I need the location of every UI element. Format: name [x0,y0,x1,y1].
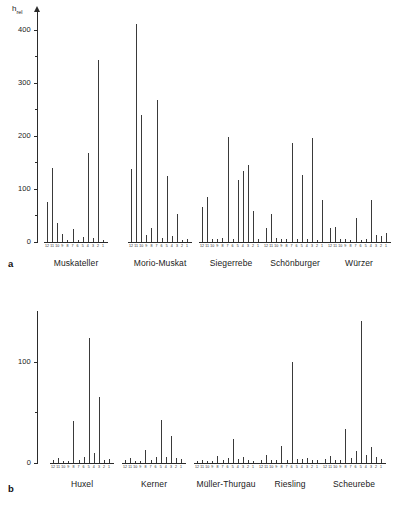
bar [371,447,372,463]
y-tick-major [34,189,38,190]
bar [94,453,95,463]
group-baseline [50,463,114,464]
bar [386,233,387,242]
bar [266,455,267,463]
bar [141,115,142,242]
y-tick-label: 300 [3,78,31,87]
bar [281,446,282,463]
group-baseline [128,242,192,243]
y-tick-label: 100 [3,184,31,193]
y-tick-minor [35,109,38,110]
y-tick-major [34,362,38,363]
bar-group [50,311,114,463]
x-tick-label: 1 [255,245,261,249]
bar-group [263,14,327,242]
bar [98,60,99,242]
bar [57,223,58,242]
bar [356,218,357,242]
x-tick-label: 1 [106,466,112,470]
y-tick-major [34,136,38,137]
group-baseline [263,242,327,243]
bar [145,450,146,463]
y-tick-label: 0 [3,458,31,467]
bar [292,143,293,242]
y-tick-label: 400 [3,25,31,34]
bar [161,420,162,463]
bar [89,338,90,463]
bar-group [122,311,186,463]
bar [62,234,63,242]
bar [177,214,178,242]
bar-group [128,14,192,242]
x-tick-label: 1 [319,245,325,249]
bar [330,228,331,242]
y-axis-line-b [37,311,38,463]
panel-b: b 0100 121110987654321Huxel1211109876543… [0,275,406,509]
bar [99,397,100,463]
bar [207,197,208,242]
bar [157,100,158,242]
bar-group [44,14,108,242]
bar [366,455,367,463]
y-tick-label: 200 [3,131,31,140]
bar [202,207,203,242]
x-tick-label: 1 [250,466,256,470]
group-label: Scheurebe [304,479,404,489]
bar [266,228,267,242]
y-axis-title: hrel [12,4,23,15]
bar-group [322,311,386,463]
bar [131,169,132,242]
x-tick-label: 1 [383,245,389,249]
x-tick-label: 1 [314,466,320,470]
panel-a: hrel a 0100200300400 121110987654321Musk… [0,0,406,275]
panel-b-letter: b [8,483,14,494]
bar [151,228,152,242]
y-tick-minor [35,56,38,57]
bar [253,211,254,242]
bar [233,439,234,463]
group-baseline [199,242,263,243]
bar [371,200,372,242]
bar [88,153,89,242]
bar [376,235,377,242]
bar [73,421,74,463]
x-tick-label: 1 [100,245,106,249]
bar [292,362,293,463]
group-baseline [44,242,108,243]
bar-group [199,14,263,242]
x-tick-label: 1 [184,245,190,249]
y-tick-minor [35,412,38,413]
group-baseline [327,242,391,243]
y-tick-major [34,242,38,243]
bar [228,137,229,242]
bar [146,235,147,242]
y-tick-label: 0 [3,237,31,246]
y-tick-major [34,30,38,31]
y-tick-major [34,463,38,464]
bar [312,138,313,242]
bar [302,175,303,242]
y-tick-major [34,83,38,84]
panel-a-letter: a [8,258,13,269]
bar [322,200,323,242]
group-baseline [194,463,258,464]
bar [52,168,53,242]
bar-group [258,311,322,463]
y-tick-minor [35,162,38,163]
group-baseline [322,463,386,464]
bar [73,229,74,242]
bar-group [194,311,258,463]
bar [243,171,244,242]
group-baseline [122,463,186,464]
y-axis-line-a [37,12,38,242]
y-tick-label: 100 [3,357,31,366]
x-tick-label: 1 [178,466,184,470]
group-label: Würzer [309,258,406,268]
y-tick-minor [35,215,38,216]
bar [361,321,362,463]
x-tick-label: 1 [378,466,384,470]
bar [335,227,336,242]
bar [356,451,357,463]
bar [330,456,331,463]
bar-group [327,14,391,242]
